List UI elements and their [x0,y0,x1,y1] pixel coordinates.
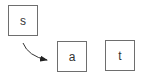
node-a-label: a [69,50,76,64]
node-a: a [57,41,87,72]
node-s: s [8,5,38,36]
node-t: t [105,40,135,71]
node-s-label: s [20,14,26,28]
node-t-label: t [118,49,121,63]
